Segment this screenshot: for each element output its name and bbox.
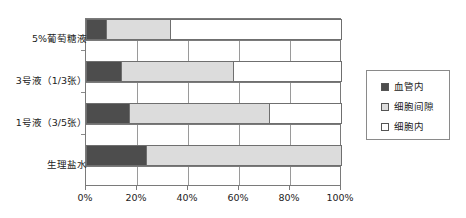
category-label-solution-3: 3号液（1/3张） [16, 75, 87, 86]
xtick-40 [187, 186, 188, 190]
segment-interstitial-1 [107, 19, 171, 40]
bar-solution-3 [86, 61, 342, 82]
stacked-bar-chart: 5%葡萄糖液 3号液（1/3张） 1号液（3/5张） 生理盐水 0% 20% 4… [0, 0, 466, 218]
legend-label-intracellular: 细胞内 [394, 122, 424, 132]
xtick-100 [340, 186, 341, 190]
segment-intracellular-1 [171, 19, 343, 40]
legend-item-intracellular: 细胞内 [381, 122, 424, 132]
chart-legend: 血管内 细胞间隙 细胞内 [366, 70, 450, 140]
xtick-label-40: 40% [176, 192, 197, 203]
bar-saline [86, 145, 342, 166]
light-gray-swatch-icon [381, 103, 389, 111]
segment-intracellular-3 [270, 103, 342, 124]
category-label-solution-1: 1号液（3/5张） [16, 117, 87, 128]
axis-stub-3 [81, 134, 85, 135]
segment-interstitial-4 [147, 145, 342, 166]
segment-blood-3 [86, 103, 130, 124]
xtick-label-100: 100% [326, 192, 353, 203]
band-separator-5 [86, 124, 340, 125]
segment-interstitial-2 [122, 61, 235, 82]
category-label-5-glucose: 5%葡萄糖液 [32, 33, 87, 44]
legend-item-blood: 血管内 [381, 82, 424, 92]
bar-5-glucose [86, 19, 342, 40]
dark-gray-swatch-icon [381, 83, 389, 91]
plot-area [85, 18, 341, 186]
xtick-label-0: 0% [77, 192, 92, 203]
xtick-0 [85, 186, 86, 190]
xtick-label-80: 80% [278, 192, 299, 203]
segment-intracellular-2 [234, 61, 342, 82]
xtick-80 [289, 186, 290, 190]
bar-solution-1 [86, 103, 342, 124]
category-label-saline: 生理盐水 [47, 159, 87, 170]
xtick-60 [238, 186, 239, 190]
band-separator-3 [86, 82, 340, 83]
band-separator-1 [86, 40, 340, 41]
segment-blood-1 [86, 19, 107, 40]
white-swatch-icon [381, 123, 389, 131]
xtick-label-20: 20% [125, 192, 146, 203]
legend-item-interstitial: 细胞间隙 [381, 102, 434, 112]
axis-stub-1 [81, 50, 85, 51]
xtick-20 [136, 186, 137, 190]
xtick-label-60: 60% [227, 192, 248, 203]
segment-blood-2 [86, 61, 122, 82]
legend-label-blood: 血管内 [394, 82, 424, 92]
legend-label-interstitial: 细胞间隙 [394, 102, 434, 112]
band-separator-7 [86, 166, 340, 167]
segment-blood-4 [86, 145, 147, 166]
segment-interstitial-3 [130, 103, 271, 124]
axis-stub-2 [81, 92, 85, 93]
